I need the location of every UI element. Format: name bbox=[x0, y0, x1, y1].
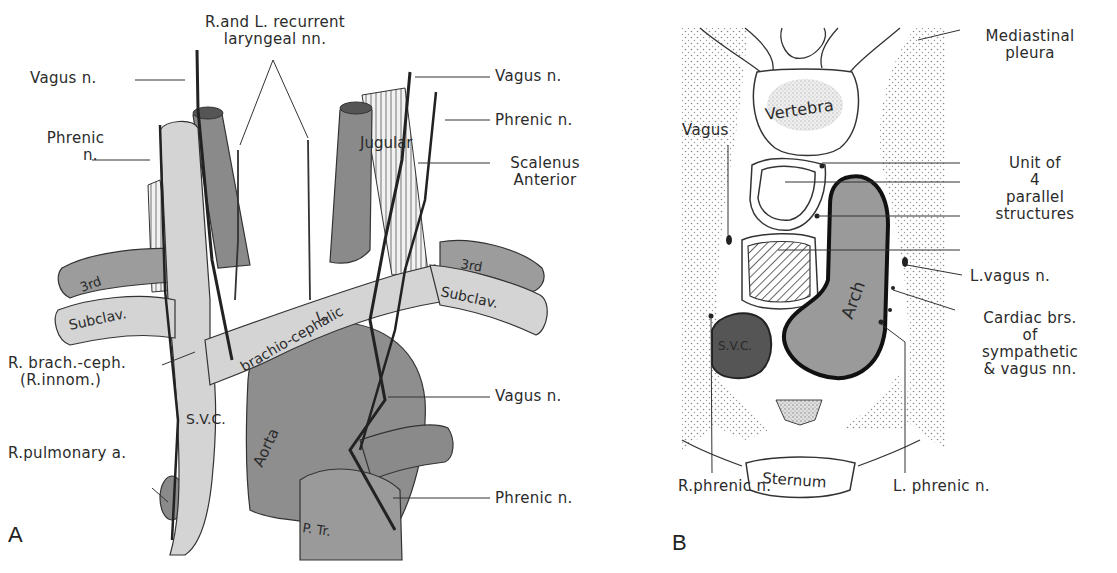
cardiac-line1: Cardiac brs. bbox=[960, 310, 1100, 327]
unit-line2: 4 bbox=[975, 172, 1095, 189]
mediastinal-line1: Mediastinal bbox=[960, 28, 1100, 45]
cardiac-branches-label: Cardiac brs. of sympathetic & vagus nn. bbox=[960, 310, 1100, 378]
r-pulmonary-label: R.pulmonary a. bbox=[8, 445, 126, 462]
phrenic-right-label: Phrenic n. bbox=[495, 112, 573, 129]
l-vagus-label: L.vagus n. bbox=[970, 268, 1050, 285]
l-phrenic-label: L. phrenic n. bbox=[893, 478, 990, 495]
unit-of-4-label: Unit of 4 parallel structures bbox=[975, 155, 1095, 223]
phrenic-left-line2: n. bbox=[28, 147, 123, 164]
mediastinal-pleura-label: Mediastinal pleura bbox=[960, 28, 1100, 62]
recurrent-laryngeal-label: R.and L. recurrent laryngeal nn. bbox=[175, 14, 375, 48]
scalenus-line1: Scalenus bbox=[490, 155, 600, 172]
unit-line4: structures bbox=[975, 206, 1095, 223]
vagus-lower-label: Vagus n. bbox=[495, 388, 562, 405]
panel-a-drawing: Jugular 3rd 3rd Subclav. Subclav. L. bra… bbox=[55, 50, 547, 560]
vagus-right-label: Vagus n. bbox=[495, 68, 562, 85]
jugular-label: Jugular bbox=[359, 134, 413, 152]
svc-label: S.V.C. bbox=[186, 411, 226, 427]
svc-b-label: S.V.C. bbox=[718, 339, 752, 353]
r-brachceph-line2: (R.innom.) bbox=[8, 372, 126, 389]
unit-line3: parallel bbox=[975, 189, 1095, 206]
cardiac-line3: sympathetic bbox=[960, 344, 1100, 361]
r-brachiocephalic-label: R. brach.-ceph. (R.innom.) bbox=[8, 355, 126, 389]
vagus-b-label: Vagus bbox=[682, 122, 729, 139]
phrenic-left-line1: Phrenic bbox=[28, 130, 123, 147]
cardiac-line4: & vagus nn. bbox=[960, 361, 1100, 378]
phrenic-lower-label: Phrenic n. bbox=[495, 490, 573, 507]
r-phrenic-label: R.phrenic n. bbox=[678, 478, 771, 495]
scalenus-anterior-label: Scalenus Anterior bbox=[490, 155, 600, 189]
scalenus-line2: Anterior bbox=[490, 172, 600, 189]
mediastinal-line2: pleura bbox=[960, 45, 1100, 62]
recurrent-laryngeal-line1: R.and L. recurrent bbox=[175, 14, 375, 31]
unit-line1: Unit of bbox=[975, 155, 1095, 172]
panel-b-drawing: Vertebra Arch S.V.C. Sternum bbox=[682, 28, 962, 498]
phrenic-left-label: Phrenic n. bbox=[28, 130, 123, 164]
cardiac-line2: of bbox=[960, 327, 1100, 344]
recurrent-laryngeal-line2: laryngeal nn. bbox=[175, 31, 375, 48]
r-brachceph-line1: R. brach.-ceph. bbox=[8, 355, 126, 372]
panel-a-letter: A bbox=[8, 522, 23, 548]
vagus-left-label: Vagus n. bbox=[30, 70, 97, 87]
panel-b-letter: B bbox=[672, 530, 687, 556]
